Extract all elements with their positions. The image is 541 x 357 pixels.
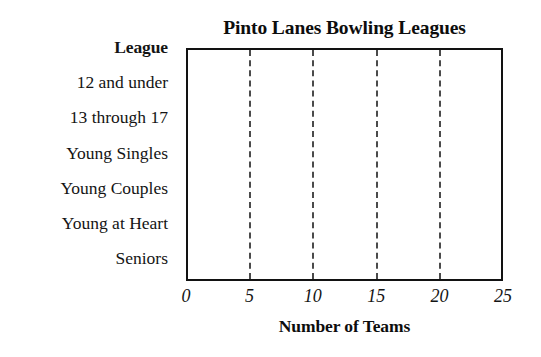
- x-axis-tick-labels: 0510152025: [0, 286, 541, 312]
- x-axis-title: Number of Teams: [186, 316, 503, 337]
- category-axis-title: League: [0, 30, 170, 65]
- category-label-13-through-17: 13 through 17: [0, 100, 170, 135]
- category-label-12-and-under: 12 and under: [0, 65, 170, 100]
- category-label-young-couples: Young Couples: [0, 171, 170, 206]
- x-tick-label-25: 25: [473, 286, 533, 307]
- x-tick-label-20: 20: [410, 286, 470, 307]
- category-label-seniors: Seniors: [0, 241, 170, 276]
- category-axis-labels: League 12 and under 13 through 17 Young …: [0, 30, 170, 276]
- category-label-young-at-heart: Young at Heart: [0, 206, 170, 241]
- category-label-young-singles: Young Singles: [0, 136, 170, 171]
- x-tick-label-15: 15: [346, 286, 406, 307]
- chart-title: Pinto Lanes Bowling Leagues: [186, 17, 503, 39]
- bar-chart-figure: Pinto Lanes Bowling Leagues League 12 an…: [0, 0, 541, 357]
- x-tick-label-5: 5: [219, 286, 279, 307]
- x-tick-label-0: 0: [156, 286, 216, 307]
- plot-area: [186, 48, 503, 281]
- x-tick-label-10: 10: [283, 286, 343, 307]
- bars-layer: [188, 50, 501, 279]
